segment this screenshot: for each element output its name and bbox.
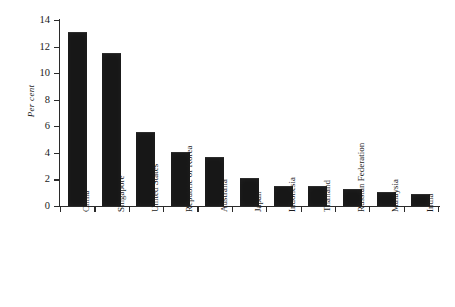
x-axis-label: India [425,194,435,213]
x-axis-label: China [81,191,91,213]
x-axis-label: Thailand [322,180,332,212]
y-axis-title: Per cent [26,78,36,124]
x-tick-mark [94,206,95,212]
y-tick-label: 12 [40,40,51,53]
y-tick-mark [54,100,60,101]
x-tick-mark [197,206,198,212]
y-tick-label: 10 [40,66,51,79]
x-axis-label: Malaysia [390,179,400,212]
y-tick-label: 4 [45,146,50,159]
x-tick-mark [266,206,267,212]
x-tick-mark [438,206,439,212]
y-tick-mark [54,179,60,180]
x-axis-label: Russian Federation [356,143,366,212]
x-tick-mark [369,206,370,212]
y-tick-label: 14 [40,13,51,26]
y-tick-mark [54,153,60,154]
y-tick-label: 0 [45,199,50,212]
x-axis-label: Singapore [116,176,126,213]
y-tick-mark [54,20,60,21]
y-tick-label: 2 [45,172,50,185]
x-axis-label: Japan [253,192,263,213]
y-tick-label: 8 [45,93,50,106]
x-tick-mark [301,206,302,212]
x-axis-label: Australia [219,179,229,212]
y-tick-mark [54,73,60,74]
x-axis-label: United States [150,164,160,212]
y-tick-mark [54,126,60,127]
y-tick-label: 6 [45,119,50,132]
bar [68,32,87,206]
x-tick-mark [60,206,61,212]
x-tick-mark [404,206,405,212]
x-tick-mark [129,206,130,212]
x-axis-label: Republic of Korea [184,146,194,212]
x-tick-mark [335,206,336,212]
x-tick-mark [232,206,233,212]
bar-chart: Per cent 02468101214 ChinaSingaporeUnite… [0,0,455,307]
x-axis-label: Indonesia [287,177,297,212]
x-tick-mark [163,206,164,212]
y-tick-mark [54,47,60,48]
